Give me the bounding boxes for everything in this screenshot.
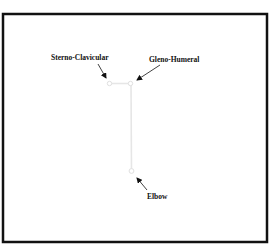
sterno-clavicular-joint <box>107 81 111 85</box>
elbow-label: Elbow <box>147 192 168 201</box>
sterno-clavicular-label: Sterno-Clavicular <box>51 53 109 62</box>
diagram-frame <box>3 14 267 242</box>
gleno-humeral-label: Gleno-Humeral <box>149 55 199 64</box>
gleno-humeral-joint <box>128 81 132 85</box>
humerus-segment <box>131 84 132 172</box>
arm-joint-diagram: Sterno-Clavicular Gleno-Humeral Elbow <box>0 0 270 246</box>
elbow-joint <box>129 169 134 174</box>
